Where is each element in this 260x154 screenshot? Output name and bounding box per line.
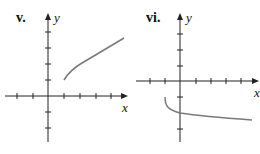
- graph-v: v. y x: [0, 0, 130, 154]
- graph-vi: vi. y x: [130, 0, 260, 154]
- graph-vi-plot: [130, 0, 260, 154]
- graph-v-plot: [0, 0, 130, 154]
